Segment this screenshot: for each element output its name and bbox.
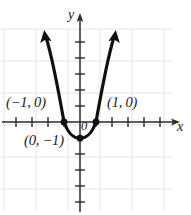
label-right-root: (1, 0) xyxy=(107,95,137,110)
label-vertex: (0, −1) xyxy=(24,133,64,148)
label-origin: 0 xyxy=(81,120,87,133)
point-right-root xyxy=(93,119,100,126)
x-axis xyxy=(2,119,180,126)
point-left-root xyxy=(61,119,68,126)
graph-figure: (−1, 0) (1, 0) (0, −1) 0 y x xyxy=(0,0,191,215)
point-vertex xyxy=(77,135,84,142)
x-axis-label: x xyxy=(177,120,183,134)
y-axis xyxy=(77,13,84,212)
label-left-root: (−1, 0) xyxy=(6,95,46,110)
y-axis-label: y xyxy=(68,8,74,22)
